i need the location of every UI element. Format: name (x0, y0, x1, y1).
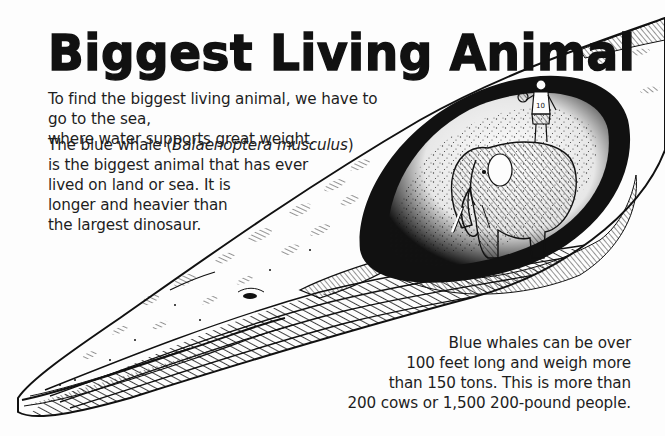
facts-line-1: Blue whales can be over (291, 333, 631, 353)
species-line-4: longer and heavier than (48, 195, 328, 215)
svg-text:10: 10 (536, 102, 545, 110)
facts-line-2: 100 feet long and weigh more (291, 353, 631, 373)
facts-paragraph: Blue whales can be over 100 feet long an… (291, 333, 631, 413)
whale-eye (243, 293, 257, 299)
facts-line-4: 200 cows or 1,500 200-pound people. (291, 393, 631, 413)
species-paragraph: The blue whale (Balaenoptera musculus) i… (48, 135, 328, 235)
species-suffix: ) (348, 136, 354, 154)
species-line-2: is the biggest animal that has ever (48, 155, 328, 175)
species-line-3: lived on land or sea. It is (48, 175, 328, 195)
page: 10 Biggest Living Animal To find the big… (0, 0, 665, 436)
page-title: Biggest Living Animal (48, 26, 635, 81)
scientific-name: Balaenoptera musculus (172, 136, 348, 154)
intro-line-1: To find the biggest living animal, we ha… (48, 90, 377, 128)
species-line-5: the largest dinosaur. (48, 215, 328, 235)
species-line-1: The blue whale (Balaenoptera musculus) (48, 135, 328, 155)
facts-line-3: than 150 tons. This is more than (291, 373, 631, 393)
species-prefix: The blue whale ( (48, 136, 172, 154)
